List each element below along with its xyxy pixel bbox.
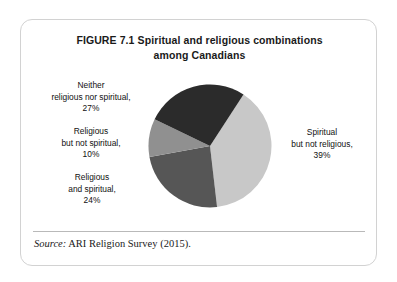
pie-chart: Neither religious nor spiritual, 27% Rel… [21,20,376,230]
pie-label-religious-spiritual-line-2: and spiritual, [33,184,151,196]
pie-label-neither-line-1: Neither [27,80,155,92]
source-divider [33,231,365,232]
pie-label-spiritual-but-not-religious: Spiritual but not religious, 39% [266,127,378,162]
pie-slice-religious-and-spiritual [149,146,217,207]
source-note: Source:ARI Religion Survey (2015). [34,238,191,249]
pie-label-religious-only-value: 10% [31,149,151,161]
pie-label-religious-spiritual-line-1: Religious [33,172,151,184]
pie-label-religious-spiritual-value: 24% [33,195,151,207]
pie-label-religious-but-not-spiritual: Religious but not spiritual, 10% [31,126,151,161]
source-text: ARI Religion Survey (2015). [68,238,191,249]
pie-label-neither-value: 27% [27,103,155,115]
pie-slices [148,84,271,207]
pie-label-spiritual-only-value: 39% [266,150,378,162]
pie-label-religious-only-line-2: but not spiritual, [31,138,151,150]
pie-label-spiritual-only-line-1: Spiritual [266,127,378,139]
pie-label-neither-line-2: religious nor spiritual, [27,92,155,104]
figure-card: FIGURE 7.1Spiritual and religious combin… [20,19,377,266]
pie-label-religious-and-spiritual: Religious and spiritual, 24% [33,172,151,207]
pie-chart-graphic [148,84,272,208]
source-label: Source: [34,238,66,249]
pie-label-religious-only-line-1: Religious [31,126,151,138]
pie-label-spiritual-only-line-2: but not religious, [266,139,378,151]
pie-label-neither-religious-nor-spiritual: Neither religious nor spiritual, 27% [27,80,155,115]
